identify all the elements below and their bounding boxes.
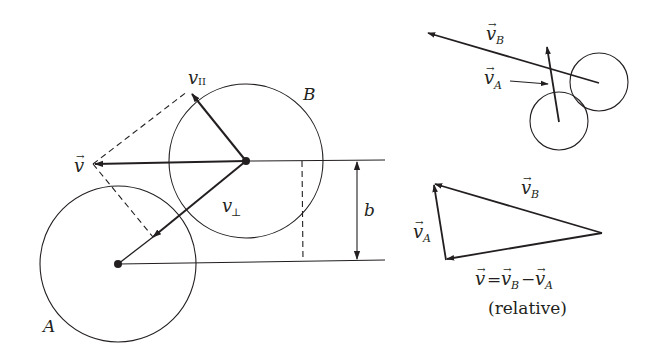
relative-velocity-label: v →	[74, 151, 85, 176]
parallel-velocity-arrow	[192, 94, 246, 161]
triangle-velocity-b-label: v → B	[521, 173, 539, 201]
svg-text:B: B	[495, 34, 504, 47]
velocity-a-label: v → A	[484, 63, 502, 92]
perpendicular-velocity-line	[118, 237, 153, 264]
parallel-velocity-label: v II	[188, 67, 206, 88]
svg-text:B: B	[530, 188, 539, 201]
dashed-vertical-line	[302, 161, 303, 261]
perpendicular-velocity-label: v ⊥	[222, 195, 241, 219]
svg-text:A: A	[422, 232, 431, 245]
impact-parameter-label: b	[364, 200, 375, 220]
sphere-b-center-dot	[242, 157, 250, 165]
velocity-a-arrow	[547, 47, 559, 122]
svg-text:→: →	[477, 264, 486, 275]
triangle-velocity-a-arrow	[434, 185, 446, 260]
figure-canvas: b A B v → v II v ⊥	[0, 0, 668, 356]
svg-text:→: →	[76, 151, 85, 162]
svg-text:=: =	[487, 269, 501, 289]
svg-text:→: →	[486, 63, 495, 74]
triangle-velocity-a-label: v → A	[413, 217, 431, 245]
svg-text:II: II	[198, 76, 206, 87]
top-right-diagram: v → B v → A	[428, 19, 628, 150]
relative-velocity-arrow	[95, 161, 246, 164]
sphere-a-center-dot	[114, 260, 122, 268]
velocity-triangle-diagram: v → B v → A v → = v → B − v → A (relativ…	[413, 173, 602, 318]
sphere-a-label: A	[41, 316, 55, 336]
velocity-a-pointer-arrow	[510, 81, 548, 84]
svg-text:⊥: ⊥	[231, 206, 241, 219]
sphere-b-label: B	[302, 84, 316, 104]
svg-text:→: →	[537, 264, 546, 275]
svg-text:→: →	[503, 264, 512, 275]
a-center-line	[118, 260, 385, 264]
velocity-b-label: v → B	[486, 19, 504, 47]
velocity-b-arrow	[428, 33, 599, 83]
svg-text:v: v	[188, 67, 198, 88]
svg-text:−: −	[521, 269, 535, 289]
collision-diagram-figure: b A B v → v II v ⊥	[0, 0, 668, 356]
small-sphere-b-circle	[570, 53, 628, 111]
main-diagram: b A B v → v II v ⊥	[40, 67, 385, 342]
svg-text:→: →	[523, 173, 532, 184]
dashed-construction-line-upper	[93, 91, 188, 164]
svg-text:B: B	[510, 279, 519, 292]
svg-text:→: →	[415, 217, 424, 228]
b-center-line	[246, 160, 385, 161]
triangle-velocity-b-arrow	[435, 184, 602, 233]
relative-velocity-equation: v → = v → B − v → A	[475, 264, 553, 292]
relative-caption: (relative)	[488, 298, 567, 318]
svg-text:A: A	[493, 79, 502, 92]
svg-text:A: A	[544, 279, 553, 292]
dashed-construction-line-lower	[93, 164, 153, 237]
svg-text:→: →	[488, 19, 497, 30]
triangle-relative-velocity-arrow	[447, 233, 602, 259]
